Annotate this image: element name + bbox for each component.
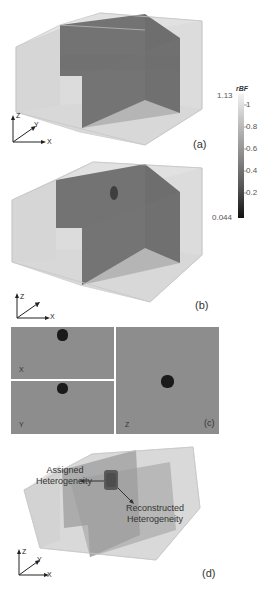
panel-b: Z Y X (b): [0, 150, 210, 320]
slice-z: Z (c): [116, 327, 219, 434]
axis-y-label: Y: [35, 301, 40, 308]
reconstructed-line2: Heterogeneity: [126, 514, 184, 525]
axis-z-label: Z: [16, 112, 20, 119]
heterogeneity-blob-z: [161, 375, 174, 388]
panel-a-label: (a): [193, 138, 206, 150]
axis-y-label: Y: [37, 556, 42, 563]
colorbar-min-label: 0.044: [212, 213, 232, 222]
slice-y-label: Y: [19, 421, 24, 428]
axis-x-label: X: [47, 571, 52, 578]
assigned-line1: Assigned: [36, 465, 92, 476]
assigned-line2: Heterogeneity: [36, 476, 92, 487]
colorbar-max-label: 1.13: [217, 91, 233, 100]
panel-d: Assigned Heterogeneity Reconstructed Het…: [0, 440, 265, 593]
colorbar-tick-0.8: 0.8: [246, 122, 257, 131]
axis-z-label: Z: [20, 293, 24, 300]
slice-x: X: [11, 327, 114, 379]
colorbar-title: rBF: [236, 85, 248, 92]
panel-c-label: (c): [204, 418, 215, 428]
heterogeneity-blob-b: [110, 186, 118, 200]
colorbar-ticks: [244, 94, 254, 218]
colorbar: rBF 1.13 1 0.8 0.6 0.4 0.2 0.044: [210, 80, 265, 220]
panel-d-label: (d): [202, 567, 215, 579]
axis-x-label: X: [47, 138, 52, 145]
axis-triad-d: [12, 545, 72, 585]
slice-y: Y: [11, 381, 114, 434]
axis-y-label: Y: [34, 121, 39, 128]
reconstructed-line1: Reconstructed: [126, 503, 184, 514]
heterogeneity-blob-y: [57, 383, 68, 394]
colorbar-tick-1: 1: [246, 100, 250, 109]
slice-z-label: Z: [125, 421, 129, 428]
colorbar-tick-0.2: 0.2: [246, 188, 257, 197]
colorbar-tick-0.4: 0.4: [246, 166, 257, 175]
reconstructed-heterogeneity-annotation: Reconstructed Heterogeneity: [126, 503, 184, 525]
panel-b-label: (b): [195, 299, 208, 311]
assigned-heterogeneity-annotation: Assigned Heterogeneity: [36, 465, 92, 487]
axis-x-label: X: [50, 313, 55, 320]
panel-c: X Y Z (c): [0, 320, 265, 440]
axis-z-label: Z: [22, 548, 26, 555]
colorbar-tick-0.6: 0.6: [246, 144, 257, 153]
heterogeneity-blob-x: [57, 329, 68, 341]
slice-x-label: X: [19, 366, 24, 373]
